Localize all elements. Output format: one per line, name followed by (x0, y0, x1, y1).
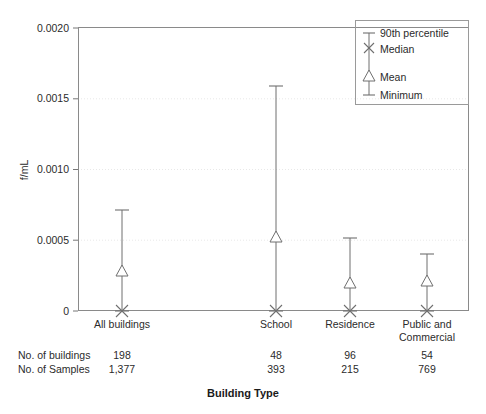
series-group-residence (343, 238, 357, 317)
category-label-public-and-commercial-line1: Public and (402, 318, 451, 330)
y-tick-label: 0 (63, 305, 69, 317)
category-label-residence: Residence (325, 318, 375, 330)
mean-triangle-marker (116, 265, 128, 276)
x-axis-title: Building Type (207, 387, 279, 399)
y-axis-title: f/mL (18, 160, 30, 181)
legend-label-mean: Mean (380, 71, 406, 83)
table-row-label-samples: No. of Samples (18, 363, 90, 375)
series-group-all-buildings (115, 210, 129, 317)
annotation-table: No. of buildings 198 48 96 54 No. of Sam… (18, 349, 436, 375)
mean-triangle-marker (270, 231, 282, 242)
gridlines (78, 99, 469, 240)
y-tick-label: 0.0020 (37, 22, 69, 34)
chart-container: 0 0.0005 0.0010 0.0015 0.0020 f/mL (0, 0, 486, 414)
table-cell: 1,377 (109, 363, 135, 375)
category-label-school: School (260, 318, 292, 330)
category-label-public-and-commercial-line2: Commercial (399, 331, 455, 343)
y-tick-label: 0.0015 (37, 92, 69, 104)
legend-label-percentile90: 90th percentile (380, 27, 449, 39)
table-cell: 96 (344, 349, 356, 361)
legend-label-minimum: Minimum (380, 89, 423, 101)
table-cell: 48 (270, 349, 282, 361)
x-axis-category-labels: All buildings School Residence Public an… (94, 318, 455, 343)
series-group-school (269, 86, 283, 317)
y-axis-tick-labels: 0 0.0005 0.0010 0.0015 0.0020 (37, 22, 69, 317)
table-cell: 393 (267, 363, 285, 375)
chart-svg: 0 0.0005 0.0010 0.0015 0.0020 f/mL (0, 0, 486, 414)
table-row-label-buildings: No. of buildings (18, 349, 90, 361)
mean-triangle-marker (344, 277, 356, 288)
table-cell: 198 (113, 349, 131, 361)
mean-triangle-marker (421, 275, 433, 286)
legend-label-median: Median (380, 43, 415, 55)
table-cell: 769 (418, 363, 436, 375)
y-tick-label: 0.0005 (37, 234, 69, 246)
table-cell: 215 (341, 363, 359, 375)
series-group-public-and-commercial (420, 254, 434, 317)
table-cell: 54 (421, 349, 433, 361)
legend: 90th percentile Median Mean Minimum (356, 21, 469, 105)
legend-mean-triangle-icon (363, 70, 375, 81)
category-label-all-buildings: All buildings (94, 318, 150, 330)
y-tick-label: 0.0010 (37, 163, 69, 175)
y-axis-ticks (73, 28, 78, 311)
